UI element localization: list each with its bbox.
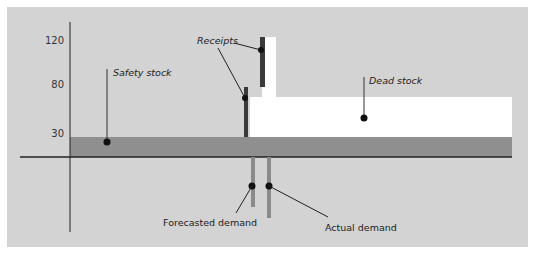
forecasted-demand-leader — [236, 186, 252, 213]
receipt-bar-1 — [244, 87, 248, 137]
actual-demand-label: Actual demand — [325, 222, 397, 233]
safety-stock-dot — [104, 139, 111, 146]
receipts-label: Receipts — [197, 35, 238, 46]
receipts-leader-2 — [218, 48, 245, 98]
dead-stock-area — [250, 97, 512, 137]
tick-30: 30 — [51, 128, 64, 139]
safety-stock-label: Safety stock — [113, 67, 172, 78]
tick-120: 120 — [45, 35, 64, 46]
receipt-2-dot — [258, 47, 264, 53]
tick-80: 80 — [51, 79, 64, 90]
actual-demand-leader — [269, 186, 328, 217]
safety-stock-band — [70, 137, 512, 157]
inventory-diagram: 120 80 30 Safety stock Receipts Dead sto… — [0, 0, 535, 258]
forecasted-demand-label: Forecasted demand — [163, 217, 257, 228]
dead-stock-label: Dead stock — [369, 75, 423, 86]
forecasted-demand-bar — [251, 157, 255, 207]
receipts-leader-1 — [234, 43, 261, 50]
dead-stock-dot — [361, 115, 368, 122]
receipt-bar-2 — [260, 37, 265, 87]
receipt-1-dot — [242, 95, 248, 101]
